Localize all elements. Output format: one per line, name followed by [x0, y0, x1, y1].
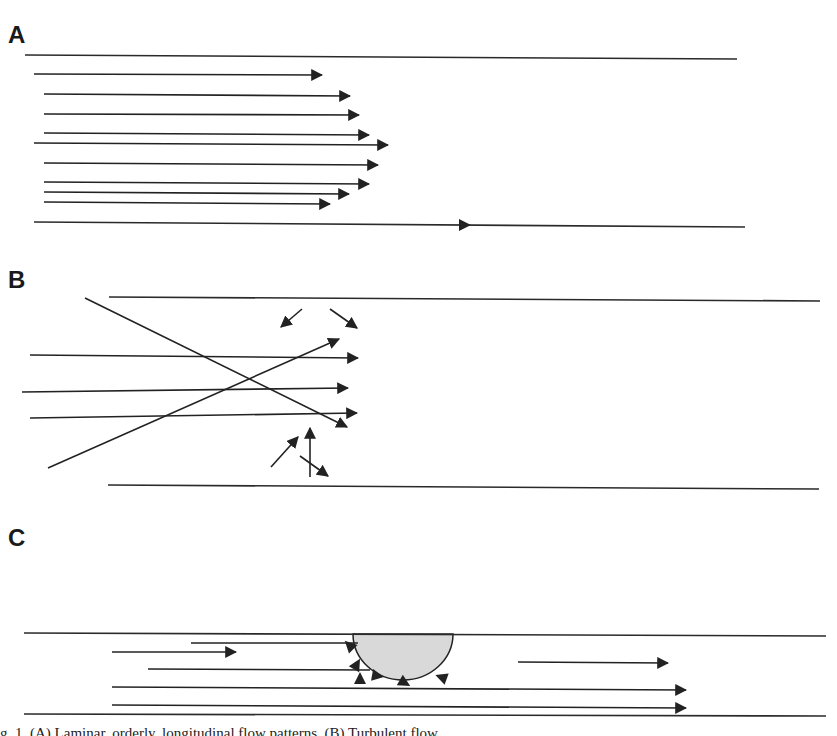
flow-arrow [44, 182, 369, 184]
flow-arrow [44, 163, 378, 165]
streamline [148, 669, 370, 670]
panel-b: B [8, 266, 820, 489]
flow-arrow [85, 298, 347, 427]
recirculation-arrowhead-icon [433, 669, 448, 684]
flow-arrow [34, 74, 322, 75]
vessel-wall [25, 55, 737, 59]
wall-obstruction [353, 634, 453, 680]
flow-arrow [30, 413, 357, 418]
flow-arrow [44, 114, 359, 115]
flow-arrow [44, 202, 330, 204]
figure-caption-fragment: g. 1. (A) Laminar, orderly, longitudinal… [0, 722, 837, 736]
vessel-wall [24, 714, 826, 716]
flow-arrow [44, 94, 350, 96]
flow-arrow [300, 456, 328, 476]
vessel-wall [34, 222, 745, 227]
flow-arrow [112, 705, 686, 708]
panel-label: C [8, 524, 25, 551]
flow-arrow [330, 309, 357, 328]
vessel-wall [108, 485, 819, 489]
flow-arrow [34, 143, 388, 145]
panel-a: A [8, 21, 745, 231]
panel-c: C [8, 524, 826, 716]
recirculation-arrowhead-icon [459, 219, 471, 231]
flow-arrow [44, 133, 369, 135]
flow-arrow [48, 339, 339, 468]
panel-label: B [8, 266, 25, 293]
flow-arrow [518, 662, 668, 663]
vessel-wall [109, 297, 820, 301]
flow-arrow [44, 192, 349, 194]
flow-arrow [281, 309, 302, 327]
flow-arrow [271, 437, 298, 467]
flow-arrow [112, 687, 686, 690]
flow-arrow [22, 388, 348, 392]
panel-label: A [8, 21, 25, 48]
flow-arrow [30, 355, 358, 358]
recirculation-arrowhead-icon [354, 672, 366, 684]
